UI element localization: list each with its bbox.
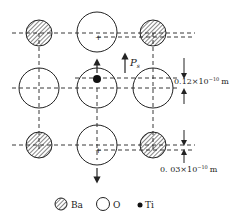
o-atom	[77, 12, 117, 52]
legend-o-label: O	[113, 200, 120, 210]
center-mark: +	[95, 146, 102, 155]
ti-shift-label: 0.12×10−10m	[174, 76, 229, 86]
ba-atom	[140, 20, 166, 46]
polarization-label: Ps	[129, 57, 140, 69]
legend-o-icon	[97, 198, 110, 211]
batio3-lattice-diagram: + + Ps 0.12×10−10m 0. 03×10−10m Ba O Ti	[0, 0, 235, 214]
ba-atom	[140, 132, 166, 158]
center-mark: +	[95, 33, 102, 42]
o-atom	[19, 68, 59, 108]
ti-atom	[93, 75, 101, 83]
legend-ti-label: Ti	[145, 200, 154, 210]
legend-ba-icon	[55, 198, 67, 210]
legend-ti-icon	[138, 203, 143, 208]
o-shift-label: 0. 03×10−10m	[160, 164, 218, 174]
legend-ba-label: Ba	[71, 200, 84, 210]
legend: Ba O Ti	[55, 198, 154, 211]
ba-atom	[26, 20, 52, 46]
ba-atom	[26, 132, 52, 158]
